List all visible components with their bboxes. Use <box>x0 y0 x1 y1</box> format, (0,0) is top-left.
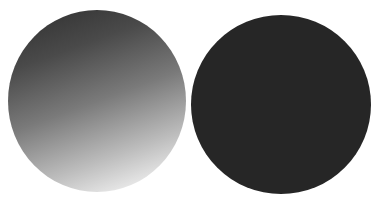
gradient-circle <box>8 10 186 192</box>
solid-circle <box>191 15 371 194</box>
cropped-caption <box>0 0 376 5</box>
